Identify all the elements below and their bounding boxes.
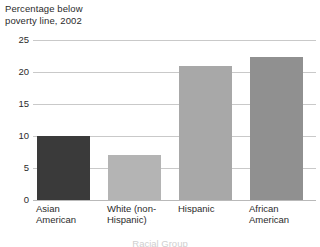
y-axis-tick-0: 0 — [5, 195, 29, 205]
x-axis-category-label: Hispanic — [178, 203, 245, 214]
plot-area: 0510152025Asian AmericanWhite (non- Hisp… — [0, 0, 320, 247]
y-axis-tick-5: 5 — [5, 163, 29, 173]
y-axis-tick-10: 10 — [5, 131, 29, 141]
chart-screenshot: Percentage below poverty line, 2002 0510… — [0, 0, 320, 247]
y-axis-tick-20: 20 — [5, 67, 29, 77]
bar — [37, 136, 90, 200]
y-axis-tick-15: 15 — [5, 99, 29, 109]
x-axis-category-label: White (non- Hispanic) — [107, 203, 174, 225]
x-axis-category-label: African American — [249, 203, 316, 225]
gridline-25 — [33, 40, 316, 41]
bar — [250, 57, 303, 200]
y-axis-tick-25: 25 — [5, 35, 29, 45]
bar — [179, 66, 232, 200]
gridline-0 — [33, 200, 316, 201]
bar — [108, 155, 161, 200]
x-axis-category-label: Asian American — [36, 203, 103, 225]
x-axis-label: Racial Group — [0, 238, 320, 247]
